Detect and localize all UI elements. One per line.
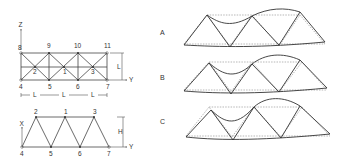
node-8-label: 8 xyxy=(18,44,22,51)
node-9-label: 9 xyxy=(47,42,51,49)
node-11-label: 11 xyxy=(104,42,111,49)
elev-height-label: H xyxy=(118,128,123,135)
plan-view-truss: Z 8 9 10 11 2 1 3 4 5 xyxy=(18,21,134,98)
z-axis-label: Z xyxy=(19,21,23,28)
elev-node-3-label: 3 xyxy=(93,108,97,115)
elev-y-axis-label: Y xyxy=(129,143,134,150)
mode-label-b: B xyxy=(160,74,165,81)
y-axis-label: Y xyxy=(129,76,134,83)
mode-shape-b: B xyxy=(160,55,327,94)
elev-node-5-label: 5 xyxy=(49,150,53,157)
node-7-label: 7 xyxy=(106,83,110,90)
elev-node-1-label: 1 xyxy=(64,108,68,115)
elev-node-4-label: 4 xyxy=(20,150,24,157)
truss-diagram: Z 8 9 10 11 2 1 3 4 5 xyxy=(0,0,345,159)
node-5-label: 5 xyxy=(48,83,52,90)
node-4-label: 4 xyxy=(19,83,23,90)
x-axis-label: X xyxy=(20,120,25,127)
elevation-view-truss: X 2 1 3 4 5 6 7 Y H xyxy=(20,108,135,157)
elev-node-7-label: 7 xyxy=(107,150,111,157)
node-1-label: 1 xyxy=(63,68,67,75)
node-10-label: 10 xyxy=(74,42,82,49)
mode-label-a: A xyxy=(160,29,165,36)
mode-shape-a: A xyxy=(160,9,325,47)
elev-node-2-label: 2 xyxy=(34,108,38,115)
span-dimension-2: L xyxy=(62,91,66,98)
span-dimension-3: L xyxy=(91,91,95,98)
node-6-label: 6 xyxy=(76,83,80,90)
node-3-label: 3 xyxy=(91,68,95,75)
elev-node-6-label: 6 xyxy=(78,150,82,157)
mode-shape-c: C xyxy=(160,99,330,140)
height-dimension-label: L xyxy=(117,63,121,70)
span-dimension-1: L xyxy=(33,91,37,98)
mode-label-c: C xyxy=(160,118,165,125)
node-2-label: 2 xyxy=(33,68,37,75)
